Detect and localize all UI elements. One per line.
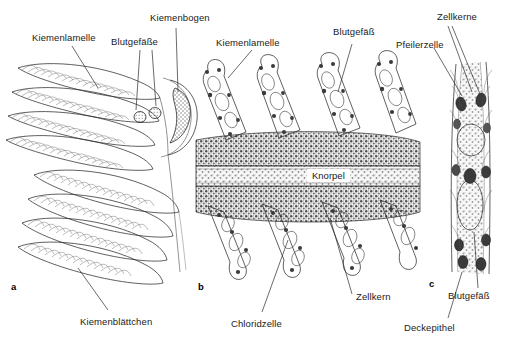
panel-letter-b: b: [198, 281, 204, 292]
panel-letter-c: c: [429, 278, 434, 289]
kiemenbogen-shape: [161, 78, 197, 157]
panel-a-artwork: [6, 28, 197, 310]
kiemenblaettchen-lower-2: [28, 194, 173, 237]
figure-artwork: [0, 0, 523, 346]
label-c-deckepithel: Deckepithel: [404, 322, 455, 333]
label-b-knorpel: Knorpel: [307, 169, 350, 182]
kiemenblaettchen-lower-1: [34, 170, 179, 213]
kiemenblaettchen-upper-4: [6, 136, 153, 171]
label-b-kiemenlamelle: Kiemenlamelle: [216, 37, 280, 48]
label-c-zellkerne: Zellkerne: [437, 11, 477, 22]
gill-anatomy-figure: Kiemenlamelle Blutgefäße Kiemenbogen Kie…: [0, 0, 523, 346]
label-c-pfeilerzelle: Pfeilerzelle: [396, 39, 444, 50]
label-a-blutgefaesse: Blutgefäße: [111, 36, 158, 47]
label-a-kiemenbogen: Kiemenbogen: [150, 12, 210, 23]
lamellae-upper: [203, 51, 416, 140]
label-b-blutgefaess: Blutgefäß: [333, 26, 375, 37]
label-a-kiemenlamelle: Kiemenlamelle: [32, 32, 96, 43]
panel-c-artwork: [434, 26, 492, 318]
panel-letter-a: a: [11, 281, 16, 292]
label-c-blutgefaess: Blutgefäß: [448, 290, 490, 301]
label-a-kiemenblaettchen: Kiemenblättchen: [80, 316, 152, 327]
kiemenblaettchen-upper-3: [8, 112, 155, 147]
kiemenblaettchen-lower-3: [22, 218, 167, 261]
kiemenblaettchen-lower-4: [18, 242, 163, 284]
panel-a-leader-lines: [72, 28, 178, 310]
label-b-zellkern: Zellkern: [356, 291, 391, 302]
label-b-chloridzelle: Chloridzelle: [231, 318, 282, 329]
